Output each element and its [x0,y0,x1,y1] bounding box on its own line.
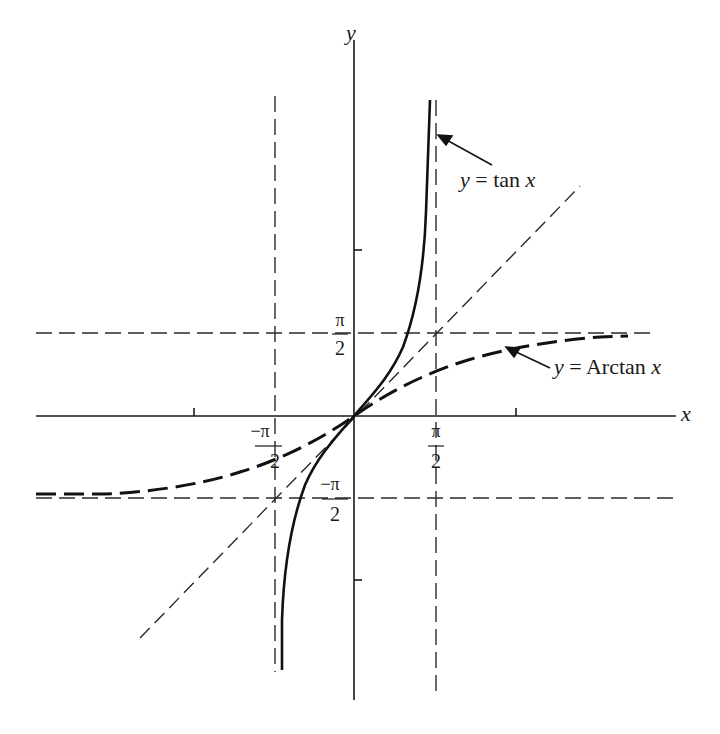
svg-text:2: 2 [335,337,345,359]
arctan-label: y = Arctan x [552,354,661,379]
tan-label: y = tan x [458,167,536,192]
x-axis-label: x [680,401,691,426]
svg-text:−π: −π [250,421,269,441]
svg-text:π: π [431,421,440,441]
function-plot: x y y = tan x y = Arctan x −π 2 π 2 π 2 … [0,0,720,734]
arctan-arrowhead-icon [506,347,520,357]
y-tick-label-pi-half: π 2 [332,310,348,359]
svg-text:−π: −π [320,474,339,494]
svg-text:2: 2 [330,503,340,525]
svg-text:π: π [335,310,344,330]
svg-text:2: 2 [270,450,280,472]
y-tick-label-neg-pi-half: −π 2 [320,474,348,525]
arctan-curve [36,336,628,494]
y-axis-label: y [344,20,356,45]
tan-arrowhead-icon [438,135,452,145]
x-tick-label-pi-half: π 2 [428,421,444,472]
tan-arrow-line [443,138,492,165]
svg-text:2: 2 [431,450,441,472]
